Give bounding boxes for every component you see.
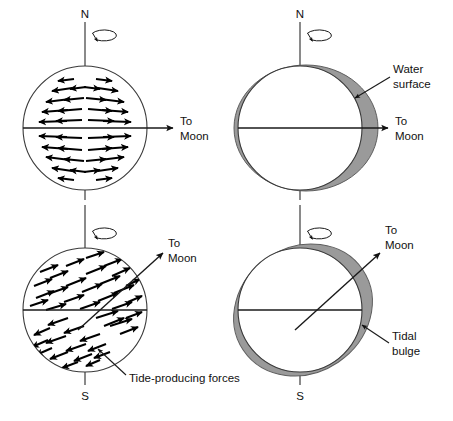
panel-top-left: N: [23, 8, 209, 200]
panel-top-right: N Water surface To Moon: [234, 8, 431, 200]
label-north-pole-tl: N: [81, 8, 89, 20]
tide-producing-forces-label: Tide-producing forces: [129, 372, 240, 384]
to-moon-label-line1-bl: To: [168, 237, 180, 249]
water-surface-label-line2: surface: [393, 78, 431, 90]
to-moon-label-line2-tr: Moon: [395, 130, 424, 142]
to-moon-label-line1-tr: To: [395, 115, 407, 127]
to-moon-label-line1-br: To: [385, 224, 397, 236]
tidal-bulge-leader: [362, 325, 389, 343]
rotation-spin-icon-tr: [308, 30, 332, 41]
label-south-pole-bl: S: [81, 390, 89, 402]
label-south-pole-br: S: [296, 390, 304, 402]
panel-bottom-left: To Moon Tide-producing forces S: [23, 205, 240, 402]
to-moon-label-line1-tl: To: [180, 115, 192, 127]
tidal-bulge-label-line2: bulge: [392, 345, 420, 357]
tidal-bulge-label-line1: Tidal: [392, 330, 417, 342]
diagram-canvas: N: [0, 0, 453, 421]
panel-bottom-right: To Moon Tidal bulge S: [208, 205, 420, 402]
water-surface-label-line1: Water: [393, 63, 423, 75]
tidal-forces-figure: N: [0, 0, 453, 421]
label-north-pole-tr: N: [296, 8, 304, 20]
to-moon-label-line2-bl: Moon: [168, 252, 197, 264]
to-moon-label-line2-br: Moon: [385, 239, 414, 251]
rotation-spin-icon: [93, 30, 117, 41]
rotation-spin-icon-br: [308, 228, 332, 239]
rotation-spin-icon-bl: [93, 228, 117, 239]
to-moon-label-line2-tl: Moon: [180, 130, 209, 142]
